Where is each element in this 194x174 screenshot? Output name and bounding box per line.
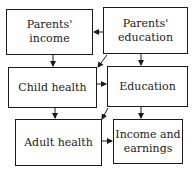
node-child-health: Child health bbox=[8, 67, 97, 108]
node-education: Education bbox=[107, 66, 188, 107]
node-label-line: Child health bbox=[18, 81, 86, 95]
arrow-parents-education-to-child-health bbox=[98, 55, 107, 67]
arrow-education-to-adult-health bbox=[102, 108, 108, 119]
node-label-line: Income and bbox=[115, 128, 180, 142]
node-parents-education: Parents' education bbox=[103, 7, 188, 54]
node-income-earnings: Income and earnings bbox=[113, 119, 183, 164]
node-label-line: Adult health bbox=[24, 136, 93, 150]
node-parents-income: Parents' income bbox=[6, 9, 93, 55]
node-label-line: Education bbox=[119, 80, 176, 94]
node-label-line: income bbox=[27, 32, 72, 46]
node-label-line: earnings bbox=[115, 142, 180, 156]
node-label-line: education bbox=[118, 31, 173, 45]
node-label-line: Parents' bbox=[118, 17, 173, 31]
node-label-line: Parents' bbox=[27, 18, 72, 32]
node-adult-health: Adult health bbox=[15, 119, 102, 166]
